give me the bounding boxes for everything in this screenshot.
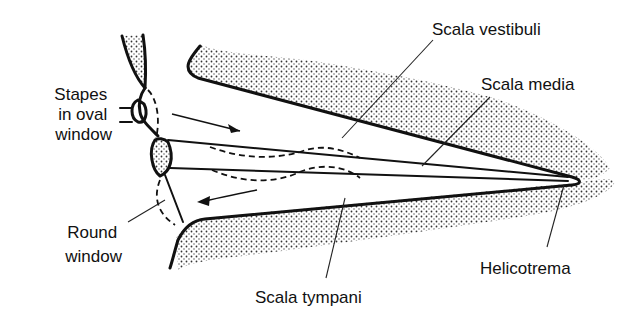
label-scala-vestibuli: Scala vestibuli <box>432 20 541 39</box>
arrow-in-icon <box>172 114 240 133</box>
stapes-icon <box>120 88 158 138</box>
cochlea-diagram: Stapes in oval window Round window Scala… <box>0 0 637 325</box>
label-round-window: Round window <box>64 223 122 266</box>
label-helicotrema: Helicotrema <box>480 259 571 278</box>
label-scala-media: Scala media <box>481 75 575 94</box>
bone-stipple <box>122 35 615 270</box>
label-scala-tympani: Scala tympani <box>255 288 362 307</box>
arrow-out-icon <box>197 190 257 206</box>
label-stapes: Stapes in oval window <box>54 85 112 144</box>
